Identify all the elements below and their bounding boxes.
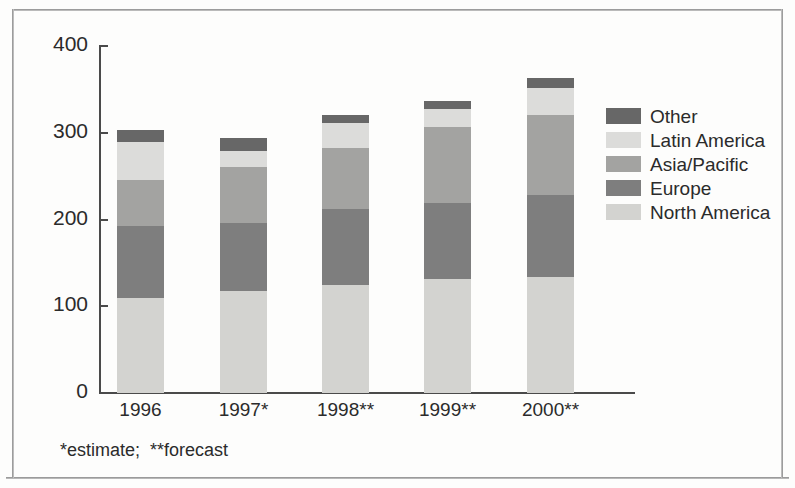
bar-segment [322, 148, 369, 209]
plot-area: 0100200300400 19961997*1998**1999**2000*… [0, 0, 795, 488]
chart-legend: OtherLatin AmericaAsia/PacificEuropeNort… [606, 104, 770, 224]
y-axis-tick-label: 200 [18, 206, 88, 230]
legend-item: Europe [606, 176, 770, 200]
bar-segment [424, 127, 471, 203]
legend-item: Latin America [606, 128, 770, 152]
bar-segment [117, 180, 164, 227]
bar-segment [424, 101, 471, 110]
legend-item-label: Asia/Pacific [650, 155, 748, 174]
x-axis-tick-label: 1999** [388, 399, 508, 421]
bar-segment [117, 142, 164, 179]
y-axis-tick [99, 45, 108, 47]
bar-segment [424, 109, 471, 126]
bar-segment [424, 203, 471, 279]
legend-item: Other [606, 104, 770, 128]
bar-segment [527, 78, 574, 88]
bar-segment [117, 298, 164, 393]
bar-segment [220, 167, 267, 223]
legend-swatch-icon [606, 204, 641, 220]
bar-stack [527, 0, 574, 393]
y-axis-tick [99, 132, 108, 134]
bar-segment [424, 279, 471, 393]
bar-stack [424, 0, 471, 393]
bar-segment [322, 209, 369, 285]
bar-segment [220, 151, 267, 167]
legend-swatch-icon [606, 180, 641, 196]
bar-segment [220, 223, 267, 291]
x-axis-tick-label: 2000** [491, 399, 611, 421]
y-axis-tick-label: 100 [18, 292, 88, 316]
legend-item-label: Other [650, 107, 698, 126]
y-axis-tick-label: 400 [18, 32, 88, 56]
bar-stack [220, 0, 267, 393]
bar-segment [220, 291, 267, 393]
bar-segment [322, 123, 369, 148]
bar-segment [220, 138, 267, 151]
legend-item-label: Latin America [650, 131, 765, 150]
bar-segment [322, 285, 369, 393]
legend-item: North America [606, 200, 770, 224]
legend-item-label: North America [650, 203, 770, 222]
chart-footnote: *estimate; **forecast [60, 440, 228, 461]
chart-figure: 0100200300400 19961997*1998**1999**2000*… [0, 0, 795, 488]
bar-stack [322, 0, 369, 393]
bar-segment [527, 88, 574, 116]
bar-segment [527, 277, 574, 393]
y-axis-tick [99, 305, 108, 307]
bar-stack [117, 0, 164, 393]
bar-segment [322, 115, 369, 123]
legend-swatch-icon [606, 108, 641, 124]
legend-item-label: Europe [650, 179, 711, 198]
legend-swatch-icon [606, 132, 641, 148]
y-axis-tick-label: 0 [18, 379, 88, 403]
y-axis-tick-label: 300 [18, 119, 88, 143]
x-axis-tick-label: 1996 [81, 399, 201, 421]
bar-segment [527, 115, 574, 195]
bar-segment [527, 195, 574, 277]
y-axis-tick [99, 219, 108, 221]
bar-segment [117, 130, 164, 142]
legend-item: Asia/Pacific [606, 152, 770, 176]
bar-segment [117, 226, 164, 297]
legend-swatch-icon [606, 156, 641, 172]
y-axis-tick [99, 392, 108, 394]
